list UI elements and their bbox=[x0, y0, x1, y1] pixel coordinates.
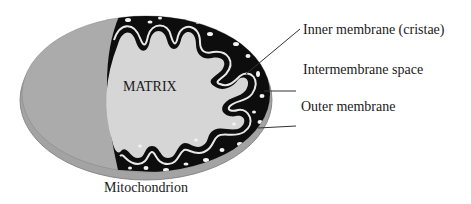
diagram-caption: Mitochondrion bbox=[104, 180, 188, 196]
outer-membrane-label: Outer membrane bbox=[301, 99, 395, 115]
inner-membrane-label: Inner membrane (cristae) bbox=[303, 22, 444, 38]
intermembrane-space-label: Intermembrane space bbox=[303, 62, 423, 78]
inner-membrane-leader-line bbox=[246, 29, 300, 74]
matrix-label: MATRIX bbox=[123, 79, 177, 95]
mitochondrion-diagram: MATRIX Inner membrane (cristae) Intermem… bbox=[0, 0, 471, 204]
